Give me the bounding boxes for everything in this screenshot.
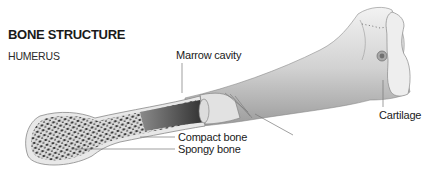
- label-cartilage: Cartilage: [379, 109, 421, 121]
- leader-periosteum: [255, 114, 293, 135]
- label-marrow-cavity: Marrow cavity: [176, 49, 241, 61]
- label-spongy-bone: Spongy bone: [178, 143, 241, 155]
- cartilage-shape: [386, 12, 410, 96]
- label-compact-bone: Compact bone: [178, 131, 247, 143]
